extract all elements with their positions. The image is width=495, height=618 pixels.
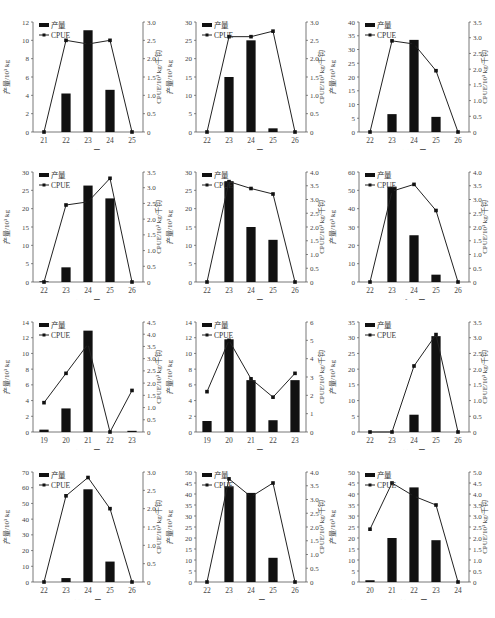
legend-bar-label: 产量 bbox=[377, 470, 392, 480]
production-bar bbox=[387, 114, 396, 132]
left-tick-label: 70 bbox=[22, 469, 30, 477]
x-tick-label: 26 bbox=[454, 136, 462, 145]
x-tick-label: 25 bbox=[269, 136, 277, 145]
panel-title: (l) 12月 bbox=[399, 599, 430, 600]
production-bar bbox=[431, 540, 440, 582]
production-bar bbox=[61, 578, 70, 582]
x-tick-label: 22 bbox=[366, 436, 374, 445]
x-tick-label: 19 bbox=[203, 436, 211, 445]
x-tick-label: 26 bbox=[291, 286, 299, 295]
right-tick-label: 0.5 bbox=[310, 110, 319, 118]
x-tick-label: 25 bbox=[269, 286, 277, 295]
cpue-marker bbox=[368, 130, 372, 134]
left-tick-label: 4 bbox=[26, 92, 30, 100]
x-tick-label: 22 bbox=[203, 286, 211, 295]
left-tick-label: 0 bbox=[352, 429, 356, 437]
right-tick-label: 0.5 bbox=[310, 565, 319, 573]
right-axis-title: CPUE/10³ kg/千钩 bbox=[317, 350, 326, 404]
legend-bar-label: 产量 bbox=[51, 20, 66, 30]
left-tick-label: 14 bbox=[22, 319, 30, 327]
x-tick-label: 22 bbox=[106, 436, 114, 445]
right-axis-title: CPUE/10³ kg/千钩 bbox=[480, 500, 489, 554]
legend: 产量CPUE bbox=[39, 170, 71, 190]
legend-line-label: CPUE bbox=[377, 481, 397, 490]
left-tick-label: 20 bbox=[185, 55, 193, 63]
legend-bar-swatch bbox=[202, 323, 212, 327]
legend-bar-label: 产量 bbox=[377, 20, 392, 30]
left-axis-title: 产量/10³ kg bbox=[2, 510, 11, 544]
left-tick-label: 12 bbox=[22, 19, 30, 27]
cpue-marker bbox=[456, 130, 460, 134]
left-tick-label: 15 bbox=[348, 87, 356, 95]
right-tick-label: 4.5 bbox=[147, 319, 156, 327]
left-axis-title: 产量/10³ kg bbox=[2, 210, 11, 244]
right-tick-label: 0 bbox=[310, 579, 314, 587]
production-bar bbox=[83, 489, 92, 582]
left-tick-label: 0 bbox=[189, 429, 193, 437]
right-axis-title: CPUE/10³ kg/千钩 bbox=[480, 200, 489, 254]
left-tick-label: 10 bbox=[348, 397, 356, 405]
left-axis-title: 产量/10³ kg bbox=[165, 60, 174, 94]
cpue-marker bbox=[390, 189, 394, 193]
legend-line-swatch bbox=[369, 334, 372, 337]
cpue-marker bbox=[434, 333, 438, 337]
legend-bar-swatch bbox=[39, 173, 49, 177]
legend: 产量CPUE bbox=[39, 20, 71, 40]
chart-panel-3: 051015202530354000.51.01.52.02.53.03.522… bbox=[326, 0, 491, 150]
x-tick-label: 22 bbox=[40, 586, 48, 595]
legend-line-swatch bbox=[206, 334, 209, 337]
left-tick-label: 10 bbox=[348, 557, 356, 565]
legend-line-label: CPUE bbox=[51, 331, 71, 340]
x-tick-label: 22 bbox=[269, 436, 277, 445]
left-tick-label: 0 bbox=[26, 279, 30, 287]
legend-bar-swatch bbox=[365, 23, 375, 27]
x-tick-label: 23 bbox=[291, 436, 299, 445]
right-tick-label: 0 bbox=[310, 279, 314, 287]
legend-line-label: CPUE bbox=[214, 31, 234, 40]
left-axis-title: 产量/10³ kg bbox=[328, 360, 337, 394]
cpue-marker bbox=[205, 580, 209, 584]
left-axis-title: 产量/10³ kg bbox=[165, 510, 174, 544]
cpue-marker bbox=[434, 209, 438, 213]
x-tick-label: 23 bbox=[84, 136, 92, 145]
production-bar bbox=[246, 227, 255, 282]
left-tick-label: 30 bbox=[348, 46, 356, 54]
right-tick-label: 0 bbox=[147, 279, 151, 287]
production-bar bbox=[105, 90, 114, 132]
right-tick-label: 6 bbox=[310, 319, 314, 327]
right-tick-label: 4.0 bbox=[147, 331, 156, 339]
legend: 产量CPUE bbox=[202, 170, 234, 190]
left-tick-label: 6 bbox=[189, 381, 193, 389]
right-tick-label: 0.5 bbox=[473, 265, 482, 273]
legend-bar-swatch bbox=[365, 173, 375, 177]
left-tick-label: 30 bbox=[348, 224, 356, 232]
left-tick-label: 25 bbox=[185, 187, 193, 195]
x-tick-label: 23 bbox=[225, 136, 233, 145]
left-tick-label: 20 bbox=[348, 366, 356, 374]
left-tick-label: 10 bbox=[22, 37, 30, 45]
chart-panel-9: 0510152025303500.51.01.52.02.53.03.52223… bbox=[326, 300, 491, 450]
cpue-marker bbox=[108, 39, 112, 43]
right-tick-label: 0 bbox=[473, 279, 477, 287]
x-tick-label: 23 bbox=[388, 286, 396, 295]
x-tick-label: 22 bbox=[203, 136, 211, 145]
x-tick-label: 22 bbox=[410, 586, 418, 595]
right-tick-label: 3.5 bbox=[473, 19, 482, 27]
x-tick-label: 26 bbox=[454, 436, 462, 445]
production-bar bbox=[127, 431, 136, 432]
right-tick-label: 0.5 bbox=[473, 568, 482, 576]
cpue-marker bbox=[108, 176, 112, 180]
chart-panel-10: 01020304050607000.51.01.52.02.53.0222324… bbox=[0, 450, 165, 600]
left-tick-label: 30 bbox=[185, 19, 193, 27]
x-tick-label: 24 bbox=[454, 586, 462, 595]
left-tick-label: 15 bbox=[22, 224, 30, 232]
x-tick-label: 23 bbox=[432, 586, 440, 595]
legend-line-label: CPUE bbox=[51, 31, 71, 40]
legend-line-label: CPUE bbox=[377, 31, 397, 40]
cpue-marker bbox=[108, 430, 112, 434]
left-tick-label: 60 bbox=[348, 169, 356, 177]
chart-panel-7: 0246810121400.51.01.52.02.53.03.54.04.51… bbox=[0, 300, 165, 450]
left-tick-label: 5 bbox=[189, 568, 193, 576]
left-tick-label: 50 bbox=[185, 469, 193, 477]
left-tick-label: 5 bbox=[189, 260, 193, 268]
